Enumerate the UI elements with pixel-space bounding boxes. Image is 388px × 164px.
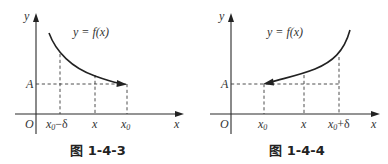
x-axis-label: x bbox=[370, 117, 377, 131]
origin-label: O bbox=[220, 117, 229, 131]
figure-caption: 图 1-4-4 bbox=[269, 143, 324, 158]
figure-canvas: y y = f(x) A O x0−δ x x0 x 图 1-4-3 y y =… bbox=[0, 0, 388, 164]
function-curve bbox=[49, 33, 120, 84]
curve-arrowhead-icon bbox=[263, 79, 274, 86]
figure-1-4-4: y y = f(x) A O x0 x x0+δ x 图 1-4-4 bbox=[210, 9, 380, 158]
tick-label-x: x bbox=[300, 117, 307, 131]
tick-label-x0: x0 bbox=[257, 117, 267, 132]
tick-label-x0: x0 bbox=[120, 117, 130, 132]
y-axis-label: y bbox=[23, 9, 30, 23]
figure-1-4-3: y y = f(x) A O x0−δ x x0 x 图 1-4-3 bbox=[15, 9, 184, 158]
y-axis-arrow-icon bbox=[228, 13, 234, 22]
tick-label-x: x bbox=[91, 117, 98, 131]
y-axis-label: y bbox=[218, 9, 225, 23]
x-axis-label: x bbox=[173, 117, 180, 131]
curve-arrowhead-icon bbox=[117, 80, 128, 87]
figure-caption: 图 1-4-3 bbox=[70, 143, 125, 158]
level-a-label: A bbox=[25, 77, 34, 91]
y-axis-arrow-icon bbox=[33, 13, 39, 22]
function-label: y = f(x) bbox=[266, 25, 303, 39]
function-label: y = f(x) bbox=[72, 25, 109, 39]
tick-label-x0-minus-delta: x0−δ bbox=[45, 117, 68, 132]
level-a-label: A bbox=[220, 77, 229, 91]
origin-label: O bbox=[25, 117, 34, 131]
tick-label-x0-plus-delta: x0+δ bbox=[327, 117, 350, 132]
